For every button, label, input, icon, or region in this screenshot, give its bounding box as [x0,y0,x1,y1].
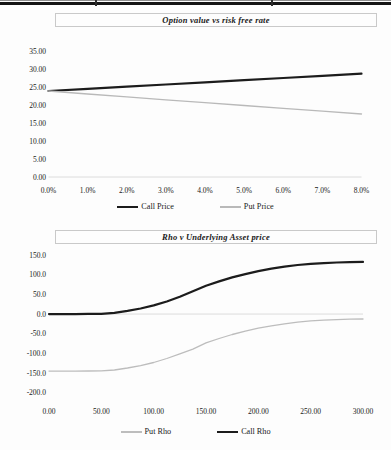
legend-line-swatch [220,206,241,207]
y-tick-label: 30.00 [0,65,46,74]
column-divider-tick [271,0,273,6]
scanned-chart-page: Option value vs risk free rate 35.0030.0… [0,0,391,450]
chart2-legend: Put RhoCall Rho [0,426,391,438]
x-tick-label: 7.0% [300,186,344,195]
chart1-title: Option value vs risk free rate [55,13,377,27]
x-tick-label: 1.0% [66,186,110,195]
x-tick-label: 0.0% [27,186,71,195]
x-tick-label: 0.00 [27,407,71,416]
column-divider-tick [95,0,97,6]
chart1-legend: Call PricePut Price [0,201,391,213]
y-tick-label: 0.0 [0,310,46,319]
legend-line-swatch [217,431,238,433]
series-line-put-rho [49,319,363,371]
chart2-title: Rho v Underlying Asset price [55,230,377,244]
y-tick-label: 150.0 [0,251,46,260]
y-tick-label: -200.0 [0,388,46,397]
x-tick-label: 100.00 [132,407,176,416]
series-line-call-rho [49,262,363,314]
legend-line-swatch [121,431,142,432]
y-tick-label: 50.0 [0,290,46,299]
legend-label: Call Rho [241,427,270,437]
y-tick-label: 100.0 [0,270,46,279]
x-tick-label: 5.0% [222,186,266,195]
x-tick-label: 3.0% [144,186,188,195]
chart-lines-svg [0,0,391,450]
x-tick-label: 4.0% [183,186,227,195]
y-tick-label: 5.00 [0,155,46,164]
y-tick-label: 0.00 [0,173,46,182]
legend-item-put-price: Put Price [220,202,274,212]
y-tick-label: 15.00 [0,119,46,128]
x-tick-label: 200.00 [236,407,280,416]
series-line-put-price [49,91,362,114]
legend-label: Put Rho [145,427,172,437]
x-tick-label: 2.0% [105,186,149,195]
legend-label: Put Price [244,202,274,212]
x-tick-label: 6.0% [261,186,305,195]
x-tick-label: 50.00 [79,407,123,416]
y-tick-label: -100.0 [0,349,46,358]
page-top-rule-thin [0,0,391,1]
y-tick-label: -150.0 [0,369,46,378]
legend-item-call-rho: Call Rho [217,427,270,437]
page-top-rule-thick [0,2,391,5]
legend-label: Call Price [141,202,174,212]
y-tick-label: 35.00 [0,47,46,56]
y-tick-label: 20.00 [0,101,46,110]
legend-item-call-price: Call Price [117,202,174,212]
series-line-call-price [49,74,362,91]
y-tick-label: -50.0 [0,329,46,338]
legend-line-swatch [117,206,138,208]
y-tick-label: 10.00 [0,137,46,146]
x-tick-label: 150.00 [184,407,228,416]
x-tick-label: 300.00 [341,407,385,416]
x-tick-label: 250.00 [289,407,333,416]
legend-item-put-rho: Put Rho [121,427,172,437]
x-tick-label: 8.0% [340,186,384,195]
y-tick-label: 25.00 [0,83,46,92]
